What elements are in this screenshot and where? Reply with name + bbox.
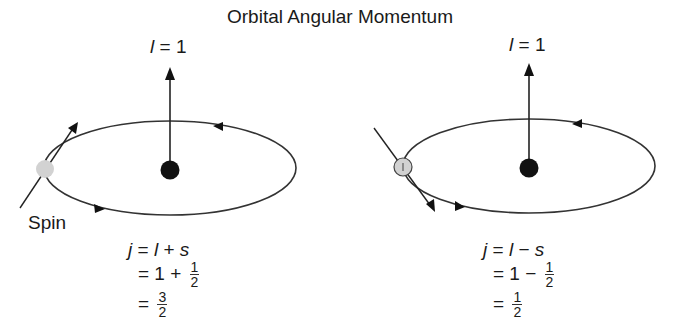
- left-l-arrowhead-icon: [165, 67, 175, 80]
- diagram-canvas: [0, 0, 680, 335]
- right-orbit-diagram: [374, 63, 655, 213]
- left-orbit-arrow-bottom-icon: [94, 204, 105, 213]
- right-equation: j = l − s = 1 − 12 = 12: [483, 240, 554, 312]
- right-orbit-arrow-top-icon: [572, 119, 582, 128]
- right-nucleus: [520, 159, 539, 178]
- right-eq-line-1: j = l − s: [483, 240, 554, 262]
- right-l-label: l = 1: [509, 34, 545, 56]
- left-orbit-diagram: [20, 67, 296, 215]
- left-eq-line-1: j = l + s: [128, 240, 199, 262]
- left-electron: [36, 160, 54, 178]
- left-eq-line-2: = 1 + 12: [138, 260, 199, 282]
- diagram-title: Orbital Angular Momentum: [0, 6, 680, 28]
- left-nucleus: [161, 161, 180, 180]
- right-eq-line-3: = 12: [493, 290, 554, 312]
- spin-label: Spin: [28, 212, 66, 234]
- left-spin-arrowhead-icon: [68, 122, 78, 134]
- right-eq-line-2: = 1 − 12: [493, 260, 554, 282]
- left-eq-line-3: = 32: [138, 290, 199, 312]
- left-equation: j = l + s = 1 + 12 = 32: [128, 240, 199, 312]
- left-l-label: l = 1: [150, 36, 186, 58]
- right-l-arrowhead-icon: [524, 63, 534, 76]
